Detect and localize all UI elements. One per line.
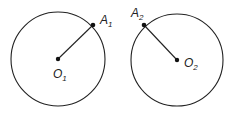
- radius-o2-a2: [144, 25, 177, 60]
- circle-1-group: O1 A1: [11, 12, 112, 106]
- point-a1: [91, 23, 96, 28]
- point-a2: [142, 23, 147, 28]
- center-point-o1: [56, 57, 60, 61]
- circle-2-group: O2 A2: [130, 6, 223, 106]
- radius-o1-a1: [58, 25, 93, 59]
- label-o1: O1: [53, 67, 67, 83]
- two-circles-diagram: O1 A1 O2 A2: [0, 0, 235, 113]
- label-a1: A1: [99, 13, 112, 29]
- center-point-o2: [175, 58, 179, 62]
- label-a2: A2: [130, 6, 144, 22]
- label-o2: O2: [184, 56, 198, 72]
